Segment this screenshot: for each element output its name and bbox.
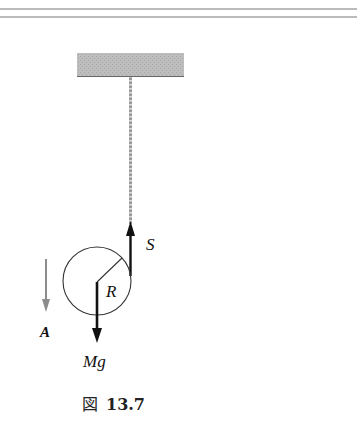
weight-label: Mg (82, 352, 106, 371)
figure-canvas: S R Mg A 図 13.7 (0, 0, 357, 434)
tension-label: S (146, 235, 155, 254)
caption-prefix: 図 (82, 395, 98, 414)
tension-arrow (126, 221, 135, 276)
header-rules (0, 9, 357, 17)
acceleration-arrow (42, 259, 50, 312)
weight-arrow (92, 282, 102, 343)
caption-number: 13.7 (106, 395, 145, 414)
acceleration-label: A (39, 324, 50, 340)
radius-line (97, 258, 122, 282)
radius-label: R (105, 282, 117, 301)
ceiling-block (77, 53, 184, 77)
rope (129, 77, 132, 224)
